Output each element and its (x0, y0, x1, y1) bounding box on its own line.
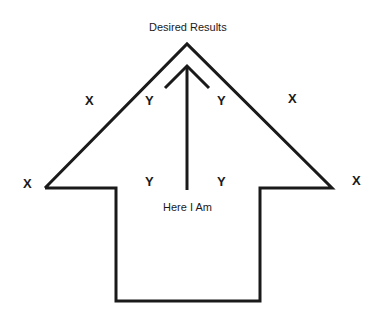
x-mark-upper-right: X (288, 91, 297, 106)
y-mark-upper-right: Y (217, 93, 226, 108)
x-mark-lower-left: X (23, 176, 32, 191)
y-mark-upper-left: Y (145, 93, 154, 108)
y-mark-lower-left: Y (145, 174, 154, 189)
desired-results-label: Desired Results (149, 21, 227, 33)
x-mark-upper-left: X (85, 93, 94, 108)
here-i-am-label: Here I Am (163, 201, 212, 213)
arrow-diagram (0, 0, 383, 316)
y-mark-lower-right: Y (217, 174, 226, 189)
x-mark-lower-right: X (352, 173, 361, 188)
